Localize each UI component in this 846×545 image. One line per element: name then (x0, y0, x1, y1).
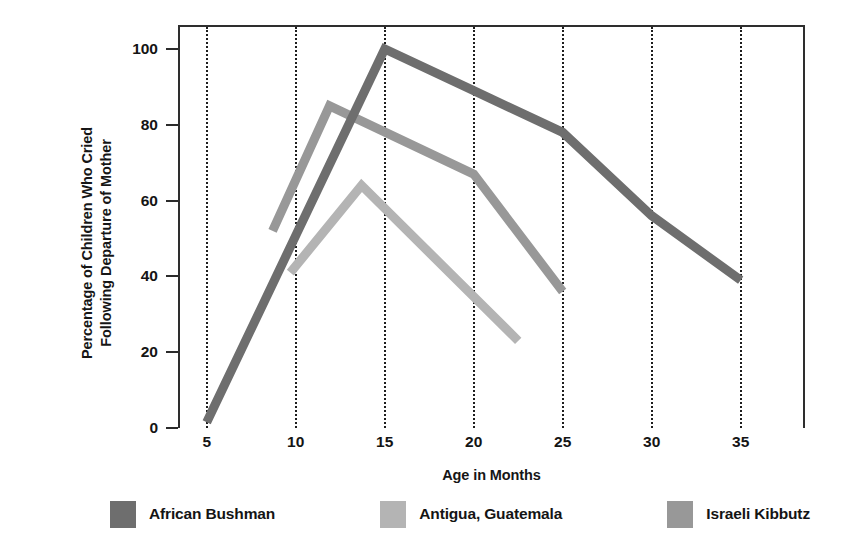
y-axis-line (178, 25, 180, 428)
x-axis-tick-label-35: 35 (718, 433, 764, 451)
gridline-10 (295, 27, 297, 428)
x-axis-tick-label-20: 20 (451, 433, 497, 451)
plot-area (178, 25, 805, 428)
x-axis-tick-label-15: 15 (362, 433, 408, 451)
y-axis-tick-mark-0 (166, 427, 178, 429)
gridline-5 (206, 27, 208, 428)
y-axis-tick-mark-20 (166, 351, 178, 353)
gridline-25 (562, 27, 564, 428)
gridline-20 (473, 27, 475, 428)
x-axis-tick-label-5: 5 (184, 433, 230, 451)
gridline-30 (651, 27, 653, 428)
legend-swatch-african-bushman (110, 501, 136, 528)
x-axis-title: Age in Months (178, 467, 805, 483)
legend-label-african-bushman: African Bushman (149, 505, 275, 523)
legend-swatch-israeli-kibbutz (667, 501, 693, 528)
legend-item-israeli-kibbutz[interactable]: Israeli Kibbutz (667, 501, 810, 528)
y-axis-tick-mark-100 (166, 48, 178, 50)
y-axis-tick-mark-40 (166, 275, 178, 277)
legend-label-antigua-guatemala: Antigua, Guatemala (419, 505, 562, 523)
line-chart-figure: Percentage of Children Who Cried Followi… (0, 0, 846, 545)
x-axis-tick-label-25: 25 (540, 433, 586, 451)
x-axis-tick-label-10: 10 (273, 433, 319, 451)
gridline-35 (740, 27, 742, 428)
gridline-15 (384, 27, 386, 428)
y-axis-tick-mark-80 (166, 124, 178, 126)
legend-label-israeli-kibbutz: Israeli Kibbutz (706, 505, 810, 523)
chart-legend: African BushmanAntigua, GuatemalaIsraeli… (110, 497, 810, 531)
x-axis-tick-label-30: 30 (629, 433, 675, 451)
legend-swatch-antigua-guatemala (380, 501, 406, 528)
y-axis-tick-mark-60 (166, 200, 178, 202)
legend-item-african-bushman[interactable]: African Bushman (110, 501, 275, 528)
legend-item-antigua-guatemala[interactable]: Antigua, Guatemala (380, 501, 562, 528)
